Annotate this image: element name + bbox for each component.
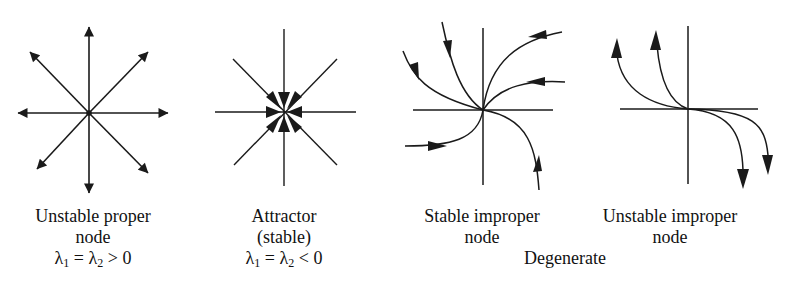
caption-line: Unstable improper — [590, 206, 750, 227]
caption-unstable-improper-node: Unstable improper node — [590, 206, 750, 248]
attractor-portrait — [215, 29, 356, 186]
caption-attractor: Attractor (stable) λ1 = λ2 < 0 — [214, 206, 354, 269]
caption-line: Unstable proper — [18, 206, 168, 227]
group-label-degenerate: Degenerate — [510, 248, 620, 269]
caption-unstable-proper-node: Unstable proper node λ1 = λ2 > 0 — [18, 206, 168, 269]
caption-line: node — [412, 227, 552, 248]
eigenvalue-condition: λ1 = λ2 > 0 — [18, 248, 168, 269]
caption-line: node — [590, 227, 750, 248]
caption-line: Stable improper — [412, 206, 552, 227]
caption-line: (stable) — [214, 227, 354, 248]
caption-line: node — [18, 227, 168, 248]
unstable-proper-node-portrait — [18, 27, 168, 193]
eigenvalue-condition: λ1 = λ2 < 0 — [214, 248, 354, 269]
stable-improper-arrowheads — [409, 30, 547, 172]
caption-line: Attractor — [214, 206, 354, 227]
caption-stable-improper-node: Stable improper node — [412, 206, 552, 248]
unstable-improper-node-portrait — [617, 26, 768, 184]
